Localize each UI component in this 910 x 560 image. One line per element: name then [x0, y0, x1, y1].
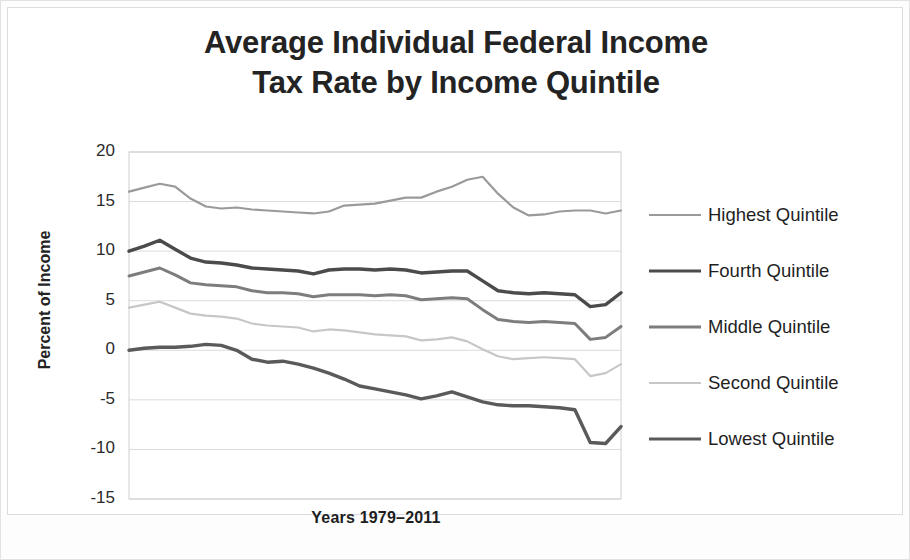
y-tick-label: -15: [63, 488, 115, 508]
data-series-group: [129, 177, 621, 444]
chart-figure: Average Individual Federal Income Tax Ra…: [0, 0, 910, 560]
legend-item[interactable]: Second Quintile: [649, 355, 899, 411]
y-tick-label: -5: [63, 389, 115, 409]
chart-legend: Highest QuintileFourth QuintileMiddle Qu…: [649, 187, 899, 467]
y-tick-label: 0: [63, 339, 115, 359]
y-tick-label: 15: [63, 191, 115, 211]
legend-item-label: Highest Quintile: [708, 204, 839, 226]
legend-item-label: Middle Quintile: [708, 316, 830, 338]
series-line: [129, 344, 621, 443]
legend-item[interactable]: Highest Quintile: [649, 187, 899, 243]
legend-item[interactable]: Fourth Quintile: [649, 243, 899, 299]
legend-line-icon: [649, 434, 701, 444]
y-tick-label: 10: [63, 240, 115, 260]
y-tick-label: 20: [63, 141, 115, 161]
y-tick-label: 5: [63, 290, 115, 310]
y-tick-label: -10: [63, 438, 115, 458]
legend-item[interactable]: Lowest Quintile: [649, 411, 899, 467]
series-line: [129, 268, 621, 339]
legend-item-label: Fourth Quintile: [708, 260, 829, 282]
legend-item-label: Second Quintile: [708, 372, 839, 394]
series-line: [129, 302, 621, 376]
legend-item-label: Lowest Quintile: [708, 428, 834, 450]
y-axis-label: Percent of Income: [36, 220, 54, 380]
legend-line-icon: [649, 378, 701, 388]
legend-line-icon: [649, 266, 701, 276]
legend-line-icon: [649, 210, 701, 220]
series-line: [129, 177, 621, 216]
x-axis-label: Years 1979–2011: [129, 509, 623, 527]
legend-line-icon: [649, 322, 701, 332]
legend-item[interactable]: Middle Quintile: [649, 299, 899, 355]
